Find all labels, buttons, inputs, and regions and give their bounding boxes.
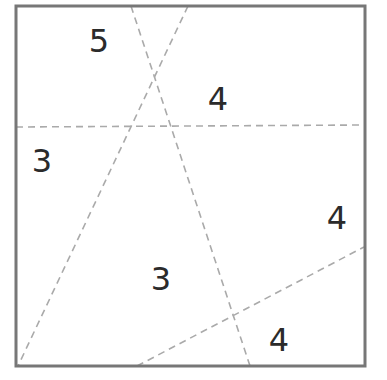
cut-lines: [16, 6, 365, 366]
region-labels: 5 4 3 4 3 4: [32, 22, 347, 359]
dissected-square-diagram: 5 4 3 4 3 4: [0, 0, 387, 380]
region-label: 3: [151, 260, 171, 298]
region-label: 3: [32, 142, 52, 180]
region-label: 4: [327, 199, 347, 237]
square-outline: [16, 6, 365, 366]
region-label: 5: [89, 22, 109, 60]
region-label: 4: [269, 321, 289, 359]
cut-line-2: [18, 6, 188, 366]
cut-line-3: [16, 125, 365, 127]
cut-line-1: [131, 6, 250, 366]
region-label: 4: [208, 80, 228, 118]
